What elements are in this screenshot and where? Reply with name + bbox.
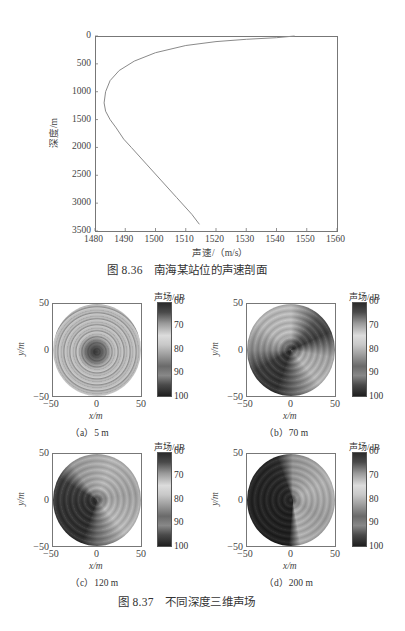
panel-label: （b）70 m [264,425,308,439]
panel-label: （c）120 m [70,575,118,589]
y-axis-title: y/m [16,492,26,506]
x-tick-label: 0 [288,398,293,409]
panel-label: （d）200 m [264,575,313,589]
y-tick-label: 50 [39,447,49,458]
y-tick-label: 50 [233,297,243,308]
colorbar-tick-label: 60 [174,296,184,306]
colorbar-tick-label: 90 [174,367,184,377]
x-tick-label: −50 [237,398,253,409]
sound-field-disk [53,304,141,396]
y-tick-label: 0 [238,344,243,355]
x-tick-label: −50 [237,548,253,559]
x-tick-label: 0 [288,548,293,559]
colorbar-tick-label: 70 [174,320,184,330]
colorbar-tick-label: 100 [174,541,188,551]
x-axis-title: x/m [89,411,103,421]
panel-label: （a）5 m [70,425,109,439]
sound-speed-plot [0,0,405,260]
colorbar-tick-label: 60 [369,446,379,456]
y-tick-label: 50 [233,447,243,458]
x-tick-label: −50 [43,548,59,559]
colorbar [157,452,172,547]
x-tick-label: 0 [94,398,99,409]
colorbar-tick-label: 100 [174,391,188,401]
x-tick-label: 50 [330,398,340,409]
x-axis-title: 声速/（m/s） [192,245,248,259]
y-tick-label: 0 [44,344,49,355]
colorbar-tick-label: 80 [369,494,379,504]
y-axis-title: y/m [210,492,220,506]
colorbar-tick-label: 80 [174,344,184,354]
y-tick-label: 0 [44,494,49,505]
colorbar-tick-label: 70 [174,470,184,480]
y-axis-title: y/m [16,342,26,356]
y-tick-label: 50 [39,297,49,308]
colorbar-tick-label: 80 [174,494,184,504]
colorbar-tick-label: 60 [369,296,379,306]
colorbar [157,302,172,397]
colorbar [352,302,367,397]
x-tick-label: 0 [94,548,99,559]
sound-speed-curve [104,36,295,224]
figure-caption: 图 8.36 南海某站位的声速剖面 [107,261,267,277]
x-axis-title: x/m [283,561,297,571]
colorbar-tick-label: 100 [369,541,383,551]
y-tick-label: 0 [238,494,243,505]
sound-field-disk [53,454,141,546]
x-axis-title: x/m [89,561,103,571]
colorbar-tick-label: 90 [369,367,379,377]
colorbar-tick-label: 90 [174,517,184,527]
colorbar-tick-label: 90 [369,517,379,527]
colorbar-tick-label: 80 [369,344,379,354]
x-axis-title: x/m [283,411,297,421]
x-tick-label: 50 [330,548,340,559]
colorbar-tick-label: 60 [174,446,184,456]
figure-caption: 图 8.37 不同深度三维声场 [118,593,256,609]
x-tick-label: 50 [136,548,146,559]
colorbar-tick-label: 100 [369,391,383,401]
colorbar-tick-label: 70 [369,320,379,330]
x-tick-label: 50 [136,398,146,409]
x-tick-label: −50 [43,398,59,409]
colorbar-tick-label: 70 [369,470,379,480]
sound-field-disk [247,304,335,396]
sound-field-disk [247,454,335,546]
y-axis-title: y/m [210,342,220,356]
colorbar [352,452,367,547]
